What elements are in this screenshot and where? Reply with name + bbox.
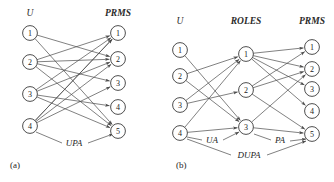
- column-header-prms-panel-b: PRMS: [299, 16, 325, 26]
- node-roles-1-panel-b[interactable]: 1: [239, 47, 254, 62]
- column-header-users-panel-b: U: [177, 16, 185, 26]
- edge-users.2-to-prms.5: [36, 67, 111, 126]
- node-label: 4: [116, 103, 120, 112]
- relation-label-ua: UA: [206, 135, 218, 145]
- leader-right-ua: [223, 132, 239, 140]
- node-label: 3: [310, 85, 314, 94]
- node-prms-3-panel-b[interactable]: 3: [305, 82, 320, 97]
- edge-users.2-to-roles.3: [186, 81, 239, 122]
- labels-layer: UPAUPRMS(a)UAPADUPAUROLESPRMS(b): [10, 8, 325, 170]
- panel-caption-panel-b: (b): [176, 160, 187, 170]
- node-users-3-panel-a[interactable]: 3: [23, 87, 38, 102]
- column-header-roles-panel-b: ROLES: [230, 16, 262, 26]
- node-label: 3: [28, 90, 32, 99]
- node-prms-5-panel-b[interactable]: 5: [305, 127, 320, 142]
- node-label: 1: [178, 46, 182, 55]
- node-label: 2: [244, 86, 248, 95]
- node-users-1-panel-a[interactable]: 1: [23, 26, 38, 41]
- edge-users.4-to-roles.3: [187, 128, 237, 133]
- edge-roles.2-to-prms.2: [253, 72, 304, 88]
- node-label: 1: [244, 50, 248, 59]
- edge-users.2-to-prms.2: [37, 59, 109, 61]
- edge-users.4-to-prms.3: [37, 87, 111, 123]
- node-label: 4: [28, 122, 32, 131]
- edge-users.3-to-prms.4: [37, 95, 109, 106]
- node-label: 2: [28, 58, 32, 67]
- node-label: 2: [178, 72, 182, 81]
- node-prms-3-panel-a[interactable]: 3: [111, 76, 126, 91]
- relation-label-pa: PA: [274, 135, 285, 145]
- edge-roles.1-to-prms.1: [253, 48, 303, 53]
- relation-label-dupa: DUPA: [237, 150, 261, 160]
- leader-right-dupa: [267, 141, 306, 155]
- diagram-canvas: 123412345123412312345 UPAUPRMS(a)UAPADUP…: [0, 0, 334, 182]
- column-header-users-panel-a: U: [27, 8, 35, 18]
- edge-roles.2-to-prms.5: [252, 94, 305, 129]
- edges-layer: [35, 35, 306, 133]
- node-users-2-panel-a[interactable]: 2: [23, 55, 38, 70]
- node-prms-2-panel-a[interactable]: 2: [111, 52, 126, 67]
- node-users-3-panel-b[interactable]: 3: [173, 98, 188, 113]
- node-label: 1: [28, 29, 32, 38]
- nodes-layer: 123412345123412312345: [23, 26, 320, 142]
- node-label: 3: [178, 101, 182, 110]
- node-label: 4: [310, 107, 314, 116]
- figure-rbac-diagram: 123412345123412312345 UPAUPRMS(a)UAPADUP…: [0, 0, 334, 182]
- node-users-4-panel-a[interactable]: 4: [23, 119, 38, 134]
- node-label: 3: [116, 79, 120, 88]
- edge-users.4-to-prms.2: [36, 64, 111, 121]
- node-label: 5: [310, 130, 314, 139]
- node-prms-2-panel-b[interactable]: 2: [305, 62, 320, 77]
- node-label: 3: [244, 123, 248, 132]
- edge-users.4-to-roles.1: [185, 61, 241, 128]
- node-label: 2: [310, 65, 314, 74]
- leader-right-upa: [88, 134, 113, 143]
- node-prms-1-panel-a[interactable]: 1: [111, 26, 126, 41]
- edge-users.2-to-prms.1: [37, 36, 110, 60]
- relation-label-upa: UPA: [66, 138, 83, 148]
- node-label: 4: [178, 129, 182, 138]
- node-users-1-panel-b[interactable]: 1: [173, 43, 188, 58]
- node-prms-5-panel-a[interactable]: 5: [111, 124, 126, 139]
- node-users-2-panel-b[interactable]: 2: [173, 69, 188, 84]
- leader-right-pa: [290, 139, 306, 141]
- node-label: 5: [116, 127, 120, 136]
- node-users-4-panel-b[interactable]: 4: [173, 126, 188, 141]
- edge-roles.3-to-prms.5: [253, 128, 303, 133]
- node-label: 1: [310, 43, 314, 52]
- column-header-prms-panel-a: PRMS: [105, 8, 131, 18]
- edge-users.2-to-roles.1: [187, 57, 238, 74]
- node-label: 1: [116, 29, 120, 38]
- node-prms-4-panel-b[interactable]: 4: [305, 104, 320, 119]
- node-prms-1-panel-b[interactable]: 1: [305, 40, 320, 55]
- node-roles-2-panel-b[interactable]: 2: [239, 83, 254, 98]
- leader-left-upa: [36, 132, 62, 143]
- node-roles-3-panel-b[interactable]: 3: [239, 120, 254, 135]
- leader-left-pa: [254, 134, 271, 140]
- node-label: 2: [116, 55, 120, 64]
- node-prms-4-panel-a[interactable]: 4: [111, 100, 126, 115]
- panel-caption-panel-a: (a): [10, 160, 20, 170]
